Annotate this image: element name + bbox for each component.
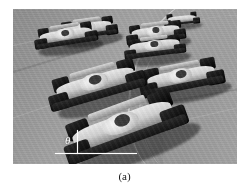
figure-caption: (a) <box>0 170 249 182</box>
photo-halftone-texture <box>13 9 237 164</box>
race-car-photograph: θ <box>13 9 237 164</box>
angle-vertical-line <box>77 130 78 154</box>
angle-horizontal-line <box>55 153 137 154</box>
theta-angle-label: θ <box>65 135 70 146</box>
figure-panel-a: θ (a) <box>0 0 249 195</box>
